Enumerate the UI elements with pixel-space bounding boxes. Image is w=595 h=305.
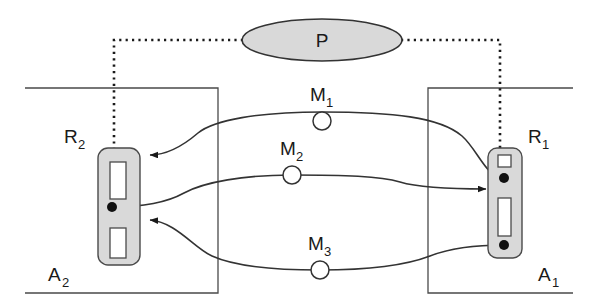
a2-label: A xyxy=(48,264,61,285)
r2-token-dot xyxy=(107,202,117,212)
r1-label-subscript: 1 xyxy=(542,137,549,152)
a2-label-subscript: 2 xyxy=(62,275,69,290)
r1-token-dot-top xyxy=(499,173,509,183)
m3-label: M xyxy=(308,233,324,254)
m1-label: M xyxy=(310,84,326,105)
r2-slot-top xyxy=(110,162,126,199)
message-m1-label: M 1 xyxy=(310,84,333,110)
message-m3[interactable] xyxy=(311,261,329,279)
agent-a1-label: A 1 xyxy=(538,264,559,290)
process-ellipse[interactable]: P xyxy=(242,19,402,61)
r1-token-dot-bottom xyxy=(499,240,509,250)
message-m2-label: M 2 xyxy=(280,138,303,164)
message-m2[interactable] xyxy=(283,166,301,184)
diagram-canvas: P R 2 R 1 M 1 xyxy=(0,0,595,305)
r1-slot-long xyxy=(498,198,511,236)
resource-r1[interactable] xyxy=(488,148,522,258)
r2-label: R xyxy=(64,126,78,147)
m2-label-subscript: 2 xyxy=(296,149,303,164)
resource-r2-label: R 2 xyxy=(64,126,85,152)
m1-label-subscript: 1 xyxy=(326,95,333,110)
r2-label-subscript: 2 xyxy=(78,137,85,152)
m2-label: M xyxy=(280,138,296,159)
m3-label-subscript: 3 xyxy=(324,244,331,259)
a1-label: A xyxy=(538,264,551,285)
r1-label: R xyxy=(528,126,542,147)
message-m3-label: M 3 xyxy=(308,233,331,259)
diagram-svg: P R 2 R 1 M 1 xyxy=(0,0,595,305)
r1-slot-square xyxy=(498,155,511,167)
message-m1[interactable] xyxy=(313,112,331,130)
r2-slot-bottom xyxy=(110,228,126,258)
process-label: P xyxy=(316,30,329,51)
resource-r1-label: R 1 xyxy=(528,126,549,152)
resource-r2[interactable] xyxy=(98,148,140,265)
agent-a2-label: A 2 xyxy=(48,264,69,290)
a1-label-subscript: 1 xyxy=(552,275,559,290)
